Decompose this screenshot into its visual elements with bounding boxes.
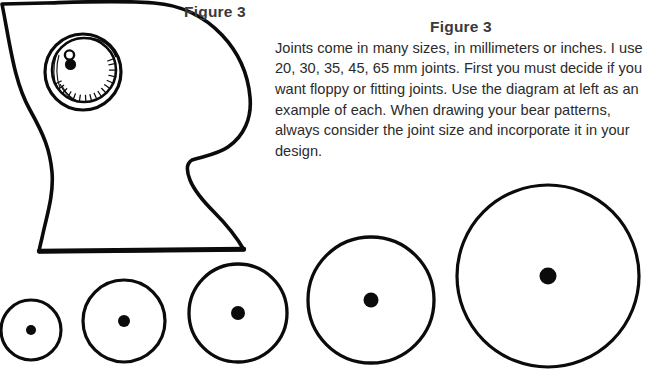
joint-circle-30mm bbox=[83, 280, 165, 362]
joint-circle-35mm bbox=[189, 264, 287, 362]
figure-text-block: Figure 3 Joints come in many sizes, in m… bbox=[275, 18, 647, 161]
figure-body-text: Joints come in many sizes, in millimeter… bbox=[275, 38, 647, 162]
joint-center-dot bbox=[231, 306, 245, 320]
joint-center-dot bbox=[26, 325, 36, 335]
bear-body-outline bbox=[2, 1, 250, 252]
figure-caption-left: Figure 3 bbox=[150, 3, 280, 20]
joint-circle-45mm bbox=[308, 237, 434, 363]
joint-disc-assembly bbox=[45, 34, 121, 110]
joint-center-dot bbox=[364, 293, 379, 308]
joint-center-dot bbox=[118, 315, 130, 327]
joint-center-dot bbox=[540, 268, 557, 285]
joint-circle-20mm bbox=[1, 300, 61, 360]
joint-circle-65mm bbox=[457, 185, 639, 367]
figure-title: Figure 3 bbox=[275, 18, 647, 36]
figure-page: Figure 3 Figure 3 Joints come in many si… bbox=[0, 0, 647, 379]
